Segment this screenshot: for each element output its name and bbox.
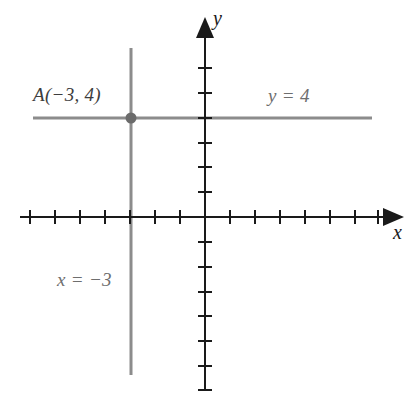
- vertical-line-label: x = −3: [57, 270, 112, 289]
- point-a-marker: [126, 113, 137, 124]
- y-axis-arrowhead-icon: [196, 17, 214, 38]
- y-axis-label: y: [213, 8, 222, 28]
- graph-figure: y x A(−3, 4) y = 4 x = −3: [0, 0, 418, 401]
- point-a-label: A(−3, 4): [33, 85, 101, 104]
- coordinate-plane-svg: [0, 0, 418, 401]
- horizontal-line-label: y = 4: [268, 86, 310, 105]
- x-axis-label: x: [393, 222, 402, 242]
